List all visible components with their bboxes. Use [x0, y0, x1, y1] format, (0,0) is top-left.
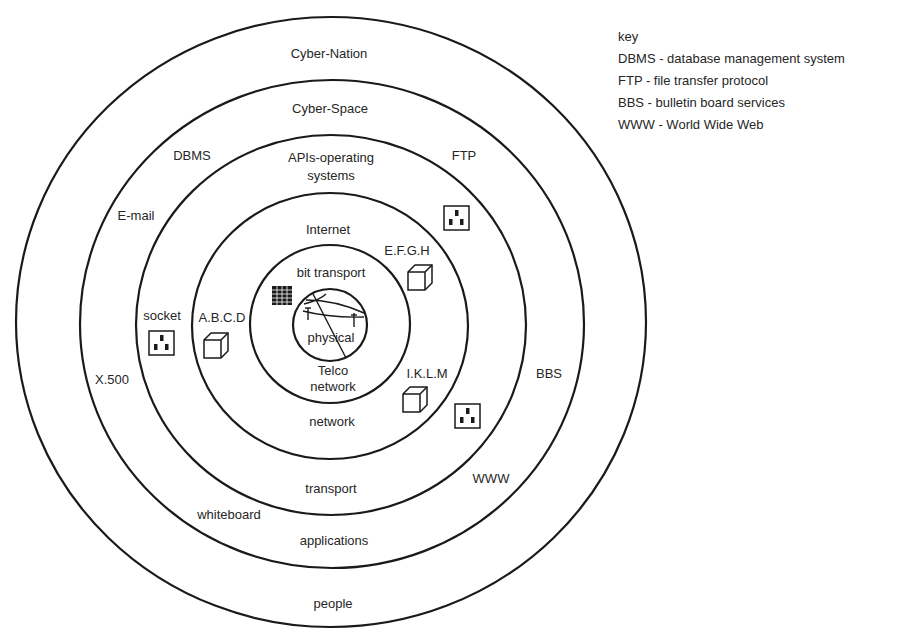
label-telco-line2: network [310, 379, 356, 394]
socket-icon [455, 404, 480, 428]
label-cyber-nation: Cyber-Nation [291, 46, 368, 61]
wire-lines [303, 294, 364, 358]
legend-entry-ftp: FTP - file transfer protocol [618, 70, 845, 92]
label-efgh: E.F.G.H [384, 243, 430, 258]
legend-key: key DBMS - database management system FT… [618, 26, 845, 136]
ring-physical [293, 289, 367, 361]
label-abcd: A.B.C.D [199, 310, 246, 325]
cube-icon [408, 265, 432, 290]
label-ftp: FTP [452, 148, 477, 163]
legend-entry-www: WWW - World Wide Web [618, 114, 845, 136]
label-transport: transport [305, 481, 357, 496]
label-network: network [309, 414, 355, 429]
legend-entry-bbs: BBS - bulletin board services [618, 92, 845, 114]
label-apis-line2: systems [307, 168, 355, 183]
cube-icon [204, 333, 228, 358]
label-applications: applications [300, 533, 369, 548]
label-iklm: I.K.L.M [406, 366, 447, 381]
label-x500: X.500 [95, 372, 129, 387]
label-people: people [313, 596, 352, 611]
legend-title: key [618, 26, 845, 48]
cube-icon [403, 387, 427, 412]
legend-entry-dbms: DBMS - database management system [618, 48, 845, 70]
socket-icon [149, 331, 174, 355]
socket-icon [444, 206, 469, 230]
label-www: WWW [473, 471, 511, 486]
label-cyber-space: Cyber-Space [292, 101, 368, 116]
label-apis-line1: APIs-operating [288, 150, 374, 165]
label-bbs: BBS [536, 366, 562, 381]
label-dbms: DBMS [173, 148, 211, 163]
label-email: E-mail [118, 208, 155, 223]
grid-chip-icon [272, 286, 292, 305]
label-whiteboard: whiteboard [196, 507, 261, 522]
label-bit-transport: bit transport [297, 265, 366, 280]
label-socket: socket [143, 308, 181, 323]
label-telco-line1: Telco [318, 363, 348, 378]
label-physical: physical [308, 330, 355, 345]
label-internet: Internet [306, 222, 350, 237]
